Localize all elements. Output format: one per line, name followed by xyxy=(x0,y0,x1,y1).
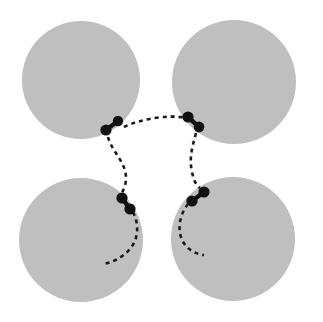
particle-dot-b xyxy=(194,122,205,133)
figure-canvas xyxy=(0,0,323,322)
disk-top-right xyxy=(172,20,296,144)
particle-dot-a xyxy=(113,116,123,126)
particle-dot-a xyxy=(198,186,209,197)
colloid-trajectory-figure xyxy=(0,0,323,322)
particle-dot-b xyxy=(186,195,197,206)
disk-bottom-right xyxy=(171,177,295,301)
particle-dot-a xyxy=(116,192,127,203)
particle-dot-b xyxy=(100,124,111,135)
particle-dot-b xyxy=(124,203,135,214)
particle-dot-a xyxy=(182,111,193,122)
